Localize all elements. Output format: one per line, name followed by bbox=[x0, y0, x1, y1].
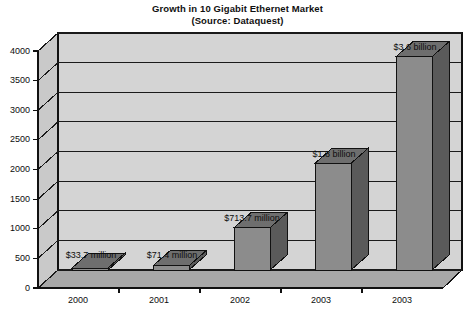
bar-front-face bbox=[153, 266, 189, 270]
y-tick-label-2500: 2500 bbox=[0, 135, 30, 144]
bar-front-face bbox=[315, 163, 351, 270]
y-tick-label-0: 0 bbox=[0, 284, 30, 293]
x-tick-label-2000: 2000 bbox=[50, 296, 106, 305]
x-tick-label-2003-b: 2003 bbox=[374, 296, 430, 305]
bar-front-face bbox=[72, 268, 108, 270]
data-label-2003-b: $3.6 billion bbox=[380, 43, 450, 52]
bar-front-face bbox=[396, 57, 432, 270]
y-axis bbox=[33, 51, 38, 288]
y-tick-label-1000: 1000 bbox=[0, 224, 30, 233]
bar-side-face bbox=[432, 42, 449, 270]
x-axis bbox=[38, 288, 443, 293]
data-label-2003-a: $1.8 billion bbox=[299, 150, 369, 159]
y-tick-label-500: 500 bbox=[0, 254, 30, 263]
floor bbox=[38, 270, 462, 288]
bar-side-face bbox=[351, 148, 368, 270]
x-tick-label-2003-a: 2003 bbox=[293, 296, 349, 305]
chart-container: Growth in 10 Gigabit Ethernet Market (So… bbox=[0, 0, 475, 312]
y-tick-label-3500: 3500 bbox=[0, 76, 30, 85]
x-tick-label-2001: 2001 bbox=[131, 296, 187, 305]
x-tick-label-2002: 2002 bbox=[212, 296, 268, 305]
y-tick-label-4000: 4000 bbox=[0, 47, 30, 56]
data-label-2001: $71.4 million bbox=[137, 251, 207, 260]
y-tick-label-2000: 2000 bbox=[0, 165, 30, 174]
bar-2003-a[interactable] bbox=[315, 148, 368, 270]
data-label-2002: $713.7 million bbox=[213, 214, 291, 223]
data-label-2000: $33.7 million bbox=[56, 251, 126, 260]
y-tick-label-1500: 1500 bbox=[0, 195, 30, 204]
y-tick-label-3000: 3000 bbox=[0, 106, 30, 115]
bar-2003-b[interactable] bbox=[396, 42, 449, 270]
bar-front-face bbox=[234, 228, 270, 270]
